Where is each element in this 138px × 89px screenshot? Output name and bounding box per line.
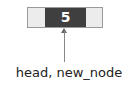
list-node: 5 — [27, 7, 103, 28]
pointer-label: head, new_node — [0, 65, 138, 80]
node-value: 5 — [45, 8, 86, 27]
pointer-arrow — [64, 31, 65, 62]
